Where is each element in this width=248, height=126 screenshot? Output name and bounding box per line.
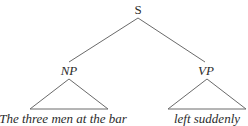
edge-s-vp xyxy=(138,18,205,62)
node-s-label: S xyxy=(134,2,141,17)
vp-leaf-text: left suddenly xyxy=(174,111,240,126)
node-np-label: NP xyxy=(60,63,78,78)
syntax-tree-diagram: S NP VP The three men at the bar left su… xyxy=(0,0,248,126)
np-leaf-text: The three men at the bar xyxy=(0,111,128,126)
node-vp-label: VP xyxy=(198,63,214,78)
vp-triangle xyxy=(168,79,246,109)
edge-s-np xyxy=(69,18,138,62)
np-triangle xyxy=(30,79,108,109)
